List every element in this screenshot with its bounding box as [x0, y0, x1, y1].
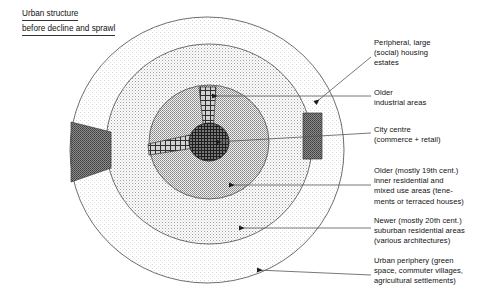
title-line-2: before decline and sprawl — [22, 23, 115, 36]
callout-line: inner residential and — [374, 176, 486, 186]
callout-line: (various architectures) — [374, 236, 486, 246]
callout-line: space, commuter villages, — [374, 266, 486, 276]
callout-line: Peripheral, large — [374, 38, 486, 48]
callout-line: ments or terraced houses) — [374, 197, 486, 207]
city-centre-core — [189, 123, 229, 161]
callout-line: Newer (mostly 20th cent.) — [374, 216, 486, 226]
callout-line: suburban residential areas — [374, 226, 486, 236]
callout-line: (commerce + retail) — [374, 135, 486, 145]
callout-line: industrial areas — [374, 98, 486, 108]
title-line-1: Urban structure — [22, 8, 78, 21]
callout-older-industrial-areas: Older industrial areas — [374, 88, 486, 108]
callout-line: Older — [374, 88, 486, 98]
callout-line: agricultural settlements) — [374, 276, 486, 286]
callout-urban-periphery: Urban periphery (green space, commuter v… — [374, 256, 486, 287]
callout-older-inner-residential: Older (mostly 19th cent.) inner resident… — [374, 166, 486, 207]
diagram-title: Urban structure before decline and spraw… — [22, 8, 182, 37]
callout-city-centre: City centre (commerce + retail) — [374, 125, 486, 145]
callout-line: estates — [374, 58, 486, 68]
callout-newer-suburban-residential: Newer (mostly 20th cent.) suburban resid… — [374, 216, 486, 247]
callout-line: Urban periphery (green — [374, 256, 486, 266]
callout-peripheral-housing-estates: Peripheral, large (social) housing estat… — [374, 38, 486, 69]
callout-line: City centre — [374, 125, 486, 135]
leader-urban-periphery — [257, 270, 371, 275]
callout-line: Older (mostly 19th cent.) — [374, 166, 486, 176]
callout-line: (social) housing — [374, 48, 486, 58]
callout-line: mixed use areas (tene- — [374, 186, 486, 196]
